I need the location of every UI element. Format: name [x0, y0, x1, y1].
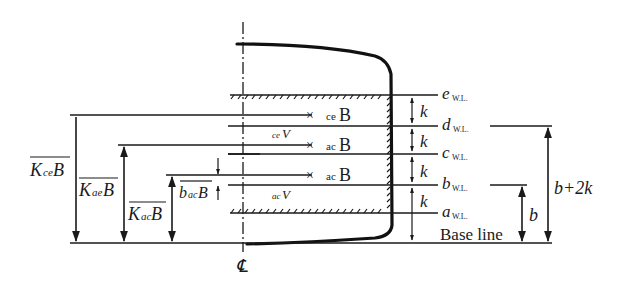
- svg-text:B: B: [339, 135, 351, 155]
- volume-label-ce: ce V: [272, 126, 292, 141]
- svg-text:W.L.: W.L.: [452, 184, 468, 193]
- base-line-label: Base line: [440, 225, 503, 244]
- k-label-3: k: [420, 162, 428, 181]
- wl-label-d: d W.L.: [442, 115, 469, 134]
- hatching-side: [387, 97, 390, 208]
- hull-outline: [237, 44, 392, 244]
- k-label-1: k: [420, 102, 428, 121]
- svg-text:ac: ac: [326, 170, 336, 182]
- svg-text:B: B: [339, 105, 351, 125]
- svg-text:a: a: [442, 202, 451, 221]
- svg-text:B: B: [103, 180, 114, 200]
- k-label-4: k: [420, 192, 428, 211]
- label-bacb: b ac B: [179, 181, 212, 201]
- centerline-symbol: ℄: [236, 256, 248, 276]
- wl-label-a: a W.L.: [442, 202, 468, 221]
- svg-text:ac: ac: [326, 140, 336, 152]
- svg-text:e: e: [442, 84, 450, 103]
- svg-text:ce: ce: [326, 110, 336, 122]
- svg-text:W.L.: W.L.: [452, 94, 468, 103]
- cob-marker-ac1: ×: [306, 138, 314, 153]
- wl-label-b: b W.L.: [442, 174, 468, 193]
- svg-text:ac: ac: [188, 189, 198, 200]
- svg-text:K: K: [127, 204, 141, 224]
- svg-text:b: b: [179, 184, 187, 201]
- svg-text:ce: ce: [43, 166, 53, 178]
- wl-label-c: c W.L.: [442, 143, 468, 162]
- svg-text:ac: ac: [141, 210, 152, 222]
- cob-label-ac1: ac B: [326, 135, 351, 155]
- label-b: b: [529, 205, 538, 225]
- wl-label-e: e W.L.: [442, 84, 468, 103]
- svg-text:V: V: [282, 187, 292, 202]
- svg-text:K: K: [78, 180, 92, 200]
- svg-text:B: B: [339, 165, 351, 185]
- label-b2k: b+2k: [554, 178, 593, 198]
- svg-text:c: c: [442, 143, 450, 162]
- svg-text:B: B: [198, 184, 208, 201]
- cob-label-ac2: ac B: [326, 165, 351, 185]
- label-kacb: K ac B: [127, 202, 166, 224]
- cob-marker-ac2: ×: [306, 168, 314, 183]
- svg-text:V: V: [282, 126, 292, 141]
- svg-text:ac: ac: [272, 191, 281, 201]
- volume-label-ac: ac V: [272, 187, 292, 202]
- svg-text:W.L.: W.L.: [453, 125, 469, 134]
- svg-text:d: d: [442, 115, 451, 134]
- label-kaeb: K ae B: [78, 178, 118, 200]
- k-label-2: k: [420, 132, 428, 151]
- svg-text:b: b: [442, 174, 451, 193]
- svg-text:B: B: [53, 160, 64, 180]
- svg-text:B: B: [151, 204, 162, 224]
- cob-label-ce: ce B: [326, 105, 351, 125]
- svg-text:ce: ce: [272, 130, 280, 140]
- svg-text:K: K: [29, 160, 43, 180]
- svg-text:W.L.: W.L.: [452, 212, 468, 221]
- cob-marker-ce: ×: [306, 108, 314, 123]
- svg-text:W.L.: W.L.: [452, 153, 468, 162]
- hull-diagram: k k k k e W.L. d W.L. c W.L. b W.L. a W.…: [0, 0, 623, 292]
- label-kceb: K ce B: [29, 157, 70, 180]
- svg-text:ae: ae: [92, 186, 103, 198]
